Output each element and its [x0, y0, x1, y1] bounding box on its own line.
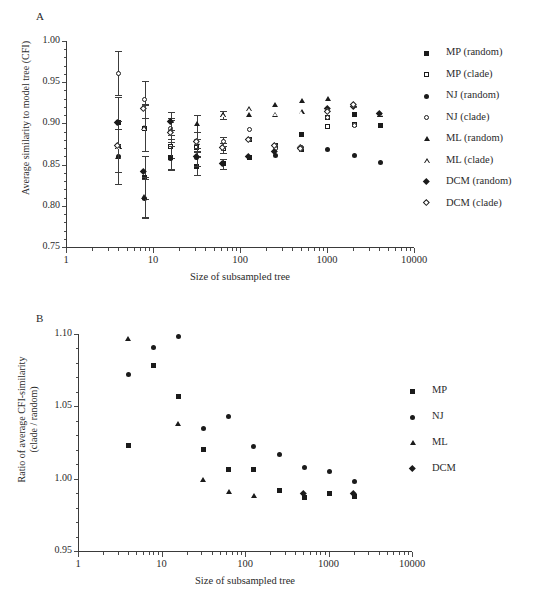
panel-a: A 0.750.800.850.900.951.0011010010001000…: [0, 0, 541, 300]
data-point: [352, 153, 357, 158]
y-tick-minor: [76, 363, 79, 364]
x-tick-minor: [136, 552, 137, 555]
x-tick-minor: [316, 552, 317, 555]
error-bar-cap: [220, 153, 227, 154]
x-tick-minor: [149, 248, 150, 251]
y-axis-title: Average similarity to model tree (CFI): [20, 0, 31, 236]
legend-marker: [424, 94, 429, 99]
data-point: [141, 125, 147, 130]
y-tick-minor: [64, 198, 67, 199]
error-bar-cap: [142, 177, 149, 178]
x-tick-major: [245, 552, 246, 557]
error-bar-cap: [115, 184, 122, 185]
data-point: [125, 336, 131, 341]
x-tick-label: 100: [214, 254, 266, 265]
error-bar-cap: [194, 166, 201, 167]
error-bar-cap: [115, 172, 122, 173]
x-tick-minor: [399, 552, 400, 555]
y-tick-label: 0.95: [38, 544, 72, 555]
data-point: [168, 156, 173, 161]
data-point: [176, 334, 181, 339]
y-tick-major: [74, 334, 78, 335]
x-tick-label: 1000: [303, 558, 355, 569]
legend-label: ML: [432, 436, 448, 447]
x-tick-minor: [310, 552, 311, 555]
x-tick-minor: [92, 248, 93, 251]
y-tick-minor: [64, 66, 67, 67]
x-tick-minor: [143, 552, 144, 555]
data-point: [325, 96, 331, 101]
x-tick-minor: [241, 552, 242, 555]
data-point: [378, 160, 383, 165]
x-tick-major: [153, 248, 154, 253]
x-tick-minor: [404, 552, 405, 555]
x-tick-minor: [388, 248, 389, 251]
error-bar-cap: [168, 112, 175, 113]
x-tick-label: 1: [52, 558, 104, 569]
y-tick-minor: [64, 222, 67, 223]
error-bar-cap: [142, 151, 149, 152]
x-tick-minor: [282, 248, 283, 251]
legend-label: NJ (clade): [446, 111, 489, 122]
y-tick-minor: [64, 107, 67, 108]
y-tick-major: [62, 206, 66, 207]
error-bar-cap: [194, 132, 201, 133]
x-tick-minor: [118, 248, 119, 251]
error-bar-cap: [142, 218, 149, 219]
x-tick-label: 10000: [386, 558, 438, 569]
x-tick-minor: [393, 552, 394, 555]
x-tick-major: [329, 552, 330, 557]
x-tick-minor: [303, 552, 304, 555]
y-tick-minor: [64, 90, 67, 91]
legend-label: MP: [432, 384, 447, 395]
y-tick-minor: [76, 508, 79, 509]
y-tick-minor: [76, 421, 79, 422]
y-axis-title-line2: (clade / random): [28, 291, 40, 548]
data-point: [299, 98, 305, 103]
data-point: [299, 109, 305, 114]
x-tick-minor: [301, 248, 302, 251]
data-point: [299, 132, 304, 137]
x-tick-minor: [205, 248, 206, 251]
x-tick-minor: [379, 248, 380, 251]
error-bar-cap: [142, 217, 149, 218]
y-tick-major: [62, 41, 66, 42]
data-point: [226, 467, 231, 472]
x-tick-minor: [270, 552, 271, 555]
legend-marker: [410, 440, 416, 445]
x-tick-major: [162, 552, 163, 557]
y-tick-minor: [64, 132, 67, 133]
x-tick-minor: [201, 552, 202, 555]
x-tick-minor: [308, 248, 309, 251]
y-tick-minor: [64, 239, 67, 240]
y-tick-major: [62, 165, 66, 166]
y-axis-title: Ratio of average CFI-similarity(clade / …: [16, 291, 40, 548]
error-bar-cap: [115, 95, 122, 96]
data-point: [327, 469, 332, 474]
y-axis-title-line1: Ratio of average CFI-similarity: [16, 291, 28, 548]
y-tick-label: 0.80: [26, 199, 60, 210]
x-tick-minor: [387, 552, 388, 555]
y-tick-minor: [64, 99, 67, 100]
x-tick-label: 1000: [301, 254, 353, 265]
y-tick-minor: [64, 49, 67, 50]
data-point: [226, 489, 232, 494]
legend-label: DCM: [432, 462, 456, 473]
legend-label: DCM (clade): [446, 197, 502, 208]
legend-label: NJ: [432, 410, 444, 421]
x-tick-minor: [408, 552, 409, 555]
error-bar-cap: [220, 119, 227, 120]
x-tick-minor: [232, 552, 233, 555]
figure-root: A 0.750.800.850.900.951.0011010010001000…: [0, 0, 541, 592]
y-axis-line: [66, 41, 67, 247]
data-point: [352, 112, 357, 117]
legend-label: MP (random): [446, 46, 502, 57]
x-tick-minor: [285, 552, 286, 555]
y-tick-minor: [76, 464, 79, 465]
data-point: [220, 112, 226, 117]
x-tick-minor: [353, 248, 354, 251]
legend-marker: [424, 51, 429, 56]
y-tick-minor: [64, 148, 67, 149]
data-point: [126, 372, 131, 377]
x-tick-major: [66, 248, 67, 253]
